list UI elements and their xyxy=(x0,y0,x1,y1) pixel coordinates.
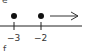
point-minus-3 xyxy=(11,13,17,19)
tick-label-minus-2: −2 xyxy=(34,33,47,43)
number-line-diagram xyxy=(0,0,87,51)
part-label-f: f xyxy=(3,45,6,51)
tick-label-minus-3: −3 xyxy=(7,33,20,43)
point-minus-2 xyxy=(38,13,44,19)
